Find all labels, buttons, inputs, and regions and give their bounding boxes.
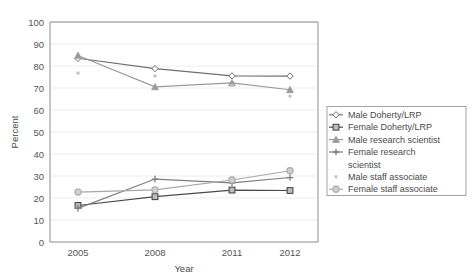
chart-figure: 100 90 80 70 60 50 40 30 20 10 0 2005 20… <box>0 0 476 278</box>
y-tick-labels: 100 90 80 70 60 50 40 30 20 10 0 <box>28 17 44 248</box>
legend-label[interactable]: Female Doherty/LRP <box>348 122 432 132</box>
x-axis-title: Year <box>174 263 193 274</box>
marker-dot <box>77 72 80 75</box>
series-line <box>78 178 290 209</box>
y-tick-90: 90 <box>33 39 44 50</box>
marker-dot <box>335 175 338 178</box>
marker-diamond <box>229 73 235 79</box>
x-tick-labels: 2005 2008 2011 2012 <box>67 247 300 258</box>
y-tick-100: 100 <box>28 17 44 28</box>
y-tick-60: 60 <box>33 105 44 116</box>
legend-label[interactable]: Male Doherty/LRP <box>348 110 422 120</box>
series-line <box>78 58 290 76</box>
marker-circle <box>287 168 293 174</box>
marker-circle <box>75 189 81 195</box>
y-tick-20: 20 <box>33 193 44 204</box>
series-3 <box>75 174 294 211</box>
x-tick-2011: 2011 <box>222 247 242 258</box>
y-tick-40: 40 <box>33 149 44 160</box>
marker-square <box>287 188 293 194</box>
marker-dot <box>289 95 292 98</box>
x-tick-2005: 2005 <box>67 247 88 258</box>
x-tick-2012: 2012 <box>279 247 300 258</box>
marker-dot <box>231 84 234 87</box>
legend-label[interactable]: Male staff associate <box>348 172 427 182</box>
y-tick-80: 80 <box>33 61 44 72</box>
y-tick-0: 0 <box>39 237 44 248</box>
y-tick-50: 50 <box>33 127 44 138</box>
marker-plus <box>287 174 294 181</box>
marker-square <box>229 187 235 193</box>
legend-label[interactable]: Male research scientist <box>348 135 441 145</box>
series-2 <box>75 52 294 93</box>
legend-label[interactable]: Female research <box>348 147 416 157</box>
marker-triangle <box>75 52 82 58</box>
marker-square <box>333 124 339 130</box>
x-tick-2008: 2008 <box>144 247 165 258</box>
legend-label[interactable]: Female staff associate <box>348 184 438 194</box>
legend: Male Doherty/LRPFemale Doherty/LRPMale r… <box>327 107 466 196</box>
y-tick-70: 70 <box>33 83 44 94</box>
series-5 <box>75 168 293 196</box>
marker-circle <box>229 177 235 183</box>
marker-circle <box>333 186 339 192</box>
series-line <box>78 55 290 89</box>
marker-diamond <box>287 73 293 79</box>
y-axis-title: Percent <box>9 115 20 148</box>
marker-dot <box>154 74 157 77</box>
legend-label-continued: scientist <box>348 160 381 170</box>
line-chart: 100 90 80 70 60 50 40 30 20 10 0 2005 20… <box>0 0 476 278</box>
y-tick-10: 10 <box>33 215 44 226</box>
series-line <box>78 171 290 192</box>
marker-plus <box>152 176 159 183</box>
marker-circle <box>152 187 158 193</box>
marker-square <box>152 194 158 200</box>
y-tick-30: 30 <box>33 171 44 182</box>
